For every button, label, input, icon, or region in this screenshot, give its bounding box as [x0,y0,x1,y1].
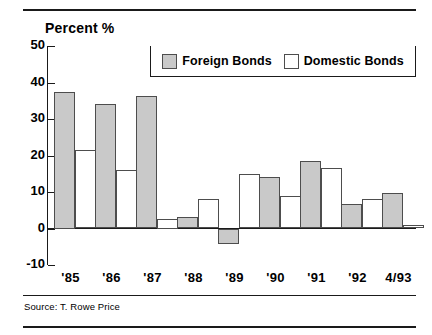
legend-label: Foreign Bonds [182,54,272,68]
white-swatch-icon [284,54,299,69]
bar-domestic [403,225,424,229]
gray-swatch-icon [162,54,177,69]
bar-foreign [95,104,116,228]
y-axis-tick-label: -10 [26,257,45,270]
plot-area: 50403020100-10 '85'86'87'88'89'90'91'924… [47,46,416,265]
top-divider [23,9,416,11]
bar-group [337,46,378,265]
bar-group [378,46,419,265]
bottom-divider [23,326,416,328]
source-divider [23,295,416,296]
bar-foreign [136,96,157,228]
y-axis-tick-label: 50 [31,38,45,51]
chart-legend: Foreign BondsDomestic Bonds [150,46,416,77]
bar-foreign [54,92,75,229]
bar-foreign [259,177,280,229]
bar-series-container [47,46,416,265]
bar-group [50,46,91,265]
y-axis-tick-mark [48,265,55,266]
legend-item: Domestic Bonds [284,54,404,69]
y-axis-tick-label: 30 [31,111,45,124]
x-axis-tick-label: 4/93 [374,270,424,285]
y-axis-tick-label: 0 [38,221,45,234]
bar-foreign [177,217,198,229]
y-axis-tick-label: 20 [31,148,45,161]
bar-group [296,46,337,265]
legend-label: Domestic Bonds [304,54,404,68]
bar-foreign [300,161,321,228]
bar-foreign [218,229,239,244]
bond-returns-figure: Percent % 50403020100-10 '85'86'87'88'89… [0,0,432,335]
bar-group [91,46,132,265]
y-axis-tick-label: 40 [31,75,45,88]
bar-group [173,46,214,265]
y-axis-tick-label: 10 [31,184,45,197]
percent-axis-title: Percent % [45,20,115,36]
source-note: Source: T. Rowe Price [24,301,120,312]
bar-group [214,46,255,265]
bar-group [132,46,173,265]
bar-foreign [382,193,403,228]
bar-group [255,46,296,265]
bar-foreign [341,204,362,229]
legend-item: Foreign Bonds [162,54,272,69]
